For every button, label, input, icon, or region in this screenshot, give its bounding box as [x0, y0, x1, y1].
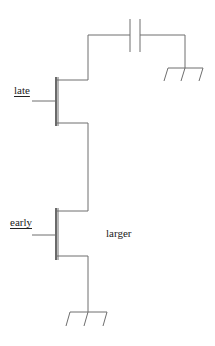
label-larger: larger: [106, 228, 131, 239]
circuit-schematic: [0, 0, 215, 346]
ground-right-icon: [164, 68, 203, 81]
middle-node-wire: [57, 123, 88, 211]
transistor-late-icon: [32, 77, 58, 126]
top-node-wire: [57, 35, 130, 80]
capacitor-icon: [130, 19, 140, 52]
capacitor-to-ground-wire: [140, 35, 185, 68]
source-to-ground-wire: [57, 256, 88, 312]
label-early: early: [10, 217, 32, 228]
label-late: late: [14, 85, 30, 96]
transistor-early-icon: [32, 208, 58, 260]
ground-bottom-icon: [66, 312, 107, 326]
